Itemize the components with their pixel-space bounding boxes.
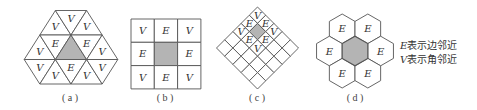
panel-c-diamond: VEEVVEEV <box>217 7 299 89</box>
panel-b-square: VEVEEVEV <box>131 19 201 89</box>
edge-neighbor-label: E <box>245 18 254 29</box>
legend-edge: E表示边邻近 <box>400 40 457 52</box>
edge-neighbor-label: E <box>338 23 347 34</box>
edge-neighbor-label: E <box>363 68 372 79</box>
edge-neighbor-label: E <box>185 48 194 59</box>
edge-neighbor-label: E <box>51 38 60 49</box>
edge-neighbor-label: E <box>376 46 385 57</box>
edge-neighbor-label: E <box>261 34 270 45</box>
caption-c: ( c ) <box>249 92 265 104</box>
caption-b: ( b ) <box>157 92 174 104</box>
edge-neighbor-label: E <box>245 34 254 45</box>
edge-neighbor-label: E <box>338 68 347 79</box>
legend-vertex: V表示角邻近 <box>400 54 457 66</box>
edge-neighbor-label: E <box>161 72 170 83</box>
edge-neighbor-label: E <box>325 46 334 57</box>
edge-neighbor-label: E <box>138 48 147 59</box>
panel-a-triangular: VVVVEEVVVEVV <box>24 11 118 85</box>
center-cell <box>154 42 177 65</box>
panel-d-hexagonal: EEEEEE <box>317 14 394 88</box>
caption-d: ( d ) <box>347 92 364 104</box>
edge-neighbor-label: E <box>82 38 91 49</box>
neighborhood-figure: VVVVEEVVVEVV VEVEEVEV VEEVVEEV EEEEEE ( … <box>0 0 477 110</box>
legend-edge-text: 表示边邻近 <box>407 40 457 51</box>
caption-a: ( a ) <box>62 92 78 104</box>
edge-neighbor-label: E <box>261 18 270 29</box>
edge-neighbor-label: E <box>66 62 75 73</box>
edge-neighbor-label: E <box>363 23 372 34</box>
edge-neighbor-label: E <box>161 25 170 36</box>
legend-vertex-text: 表示角邻近 <box>407 54 457 65</box>
